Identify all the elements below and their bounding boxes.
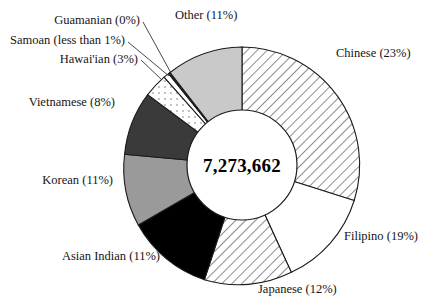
label-chinese: Chinese (23%) (336, 46, 411, 60)
label-other: Other (11%) (175, 8, 237, 22)
label-korean: Korean (11%) (42, 173, 113, 187)
donut-chart: 7,273,662 Other (11%) Guamanian (0%) Sam… (0, 0, 431, 306)
donut-chart-container: 7,273,662 Other (11%) Guamanian (0%) Sam… (0, 0, 431, 306)
label-filipino: Filipino (19%) (344, 229, 418, 243)
label-samoan: Samoan (less than 1%) (10, 33, 125, 47)
label-asian-indian: Asian Indian (11%) (62, 249, 160, 263)
center-total-value: 7,273,662 (203, 155, 281, 176)
label-guamanian: Guamanian (0%) (54, 13, 140, 27)
leader-line-hawaiian (141, 60, 162, 80)
label-hawaiian: Hawai'ian (3%) (60, 52, 138, 66)
label-japanese: Japanese (12%) (258, 282, 337, 296)
leader-line-group (128, 22, 171, 80)
label-vietnamese: Vietnamese (8%) (29, 95, 115, 109)
